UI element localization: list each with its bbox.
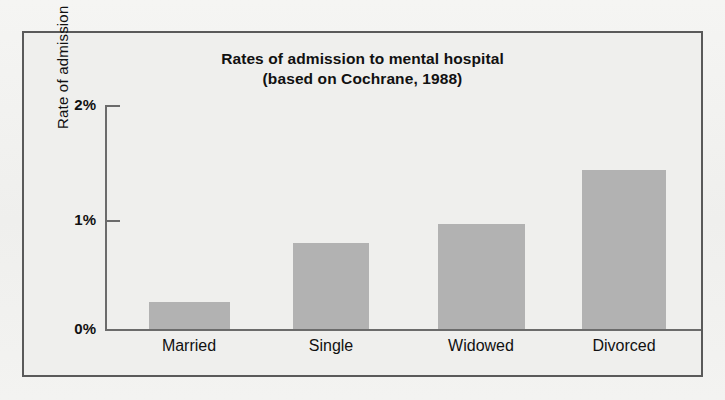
y-axis-tick-label-1: 1% bbox=[74, 211, 96, 228]
bar-divorced bbox=[582, 170, 666, 329]
plot-area: 2% 1% 0% bbox=[105, 105, 701, 331]
bar-single bbox=[293, 243, 369, 329]
y-axis-tick-label-2: 2% bbox=[74, 96, 96, 113]
bar-married bbox=[149, 302, 230, 329]
y-axis-title: Rate of admission bbox=[54, 6, 71, 129]
x-axis-label-divorced: Divorced bbox=[592, 337, 655, 355]
y-axis-tick-label-0: 0% bbox=[74, 320, 96, 337]
page-background: Rates of admission to mental hospital (b… bbox=[0, 0, 725, 400]
x-axis-label-widowed: Widowed bbox=[448, 337, 514, 355]
y-axis-line bbox=[105, 105, 107, 331]
x-axis-category-labels: Married Single Widowed Divorced bbox=[105, 337, 701, 365]
bar-widowed bbox=[438, 224, 525, 329]
y-axis-tick-2: 2% bbox=[105, 105, 120, 107]
chart-title-line-2: (based on Cochrane, 1988) bbox=[24, 69, 701, 89]
x-axis-line bbox=[105, 329, 701, 331]
chart-figure-frame: Rates of admission to mental hospital (b… bbox=[22, 31, 703, 377]
chart-title-line-1: Rates of admission to mental hospital bbox=[221, 50, 504, 67]
chart-title: Rates of admission to mental hospital (b… bbox=[24, 49, 701, 90]
y-axis-tick-1: 1% bbox=[105, 220, 120, 222]
x-axis-label-single: Single bbox=[309, 337, 353, 355]
x-axis-label-married: Married bbox=[162, 337, 216, 355]
